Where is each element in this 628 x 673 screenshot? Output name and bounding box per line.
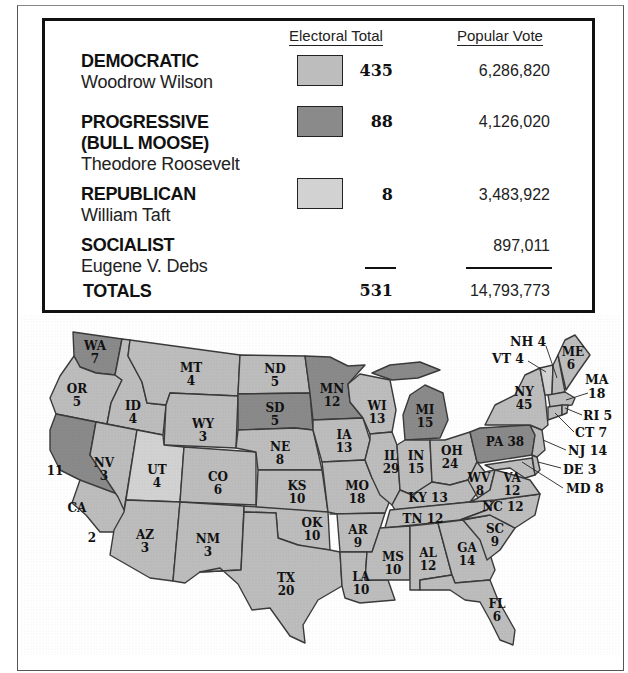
svg-text:NY45: NY45 [514, 385, 534, 412]
label-ME-votes: 6 [567, 358, 575, 372]
candidate-name: William Taft [81, 205, 170, 225]
label-CO-abbr: CO [208, 470, 228, 484]
callout-NJ: NJ 14 [568, 443, 607, 458]
us-electoral-map: WA7 OR5 11 CA 2 ID4 NV3 MT4 WY3 UT4 CO6 … [20, 315, 620, 655]
label-CA-north-votes: 11 [47, 464, 64, 478]
svg-text:MO18: MO18 [345, 479, 369, 506]
label-WA-votes: 7 [91, 352, 99, 366]
svg-text:IL29: IL29 [383, 449, 400, 476]
label-AL-abbr: AL [418, 546, 437, 560]
label-MO-abbr: MO [345, 479, 369, 493]
label-MN-votes: 12 [324, 395, 341, 409]
label-NC: NC 12 [482, 500, 523, 514]
party-name: REPUBLICAN [81, 184, 196, 204]
label-LA-abbr: LA [352, 570, 370, 584]
svg-text:IA13: IA13 [336, 428, 353, 455]
label-VA-abbr: VA [502, 471, 521, 485]
label-ID-abbr: ID [125, 399, 141, 413]
label-MN-abbr: MN [320, 382, 344, 396]
label-NM-votes: 3 [204, 545, 212, 559]
label-MS-votes: 10 [385, 563, 402, 577]
label-OH-abbr: OH [441, 444, 463, 458]
label-OK-abbr: OK [302, 516, 323, 530]
callout-RI: RI 5 [583, 408, 612, 423]
label-IA-abbr: IA [337, 428, 353, 442]
electoral-votes: 88 [333, 112, 393, 132]
svg-text:WI13: WI13 [366, 399, 386, 426]
label-AR-abbr: AR [347, 523, 368, 537]
label-ND-votes: 5 [271, 375, 279, 389]
leader-CT [555, 413, 574, 432]
label-AZ-abbr: AZ [135, 528, 154, 542]
label-NV-votes: 3 [100, 469, 108, 483]
label-MI-votes: 15 [417, 416, 434, 430]
label-IA-votes: 13 [336, 441, 353, 455]
label-IL-abbr: IL [384, 449, 399, 463]
candidate-name: Theodore Roosevelt [81, 154, 240, 174]
leader-DE [538, 462, 561, 468]
label-GA-votes: 14 [459, 554, 476, 568]
label-KY: KY 13 [408, 491, 448, 505]
popular-votes: 3,483,922 [420, 185, 550, 205]
label-OK-votes: 10 [304, 529, 321, 543]
label-MT-votes: 4 [187, 374, 195, 388]
label-ME-abbr: ME [562, 345, 584, 359]
label-CA-abbr: CA [68, 501, 88, 515]
candidate-name: Woodrow Wilson [81, 72, 213, 92]
callout-MA-votes: 18 [588, 386, 606, 401]
party-name: SOCIALIST [81, 235, 174, 255]
label-TX-votes: 20 [278, 584, 295, 598]
label-FL-votes: 6 [493, 610, 501, 624]
electoral-votes: 8 [333, 185, 393, 205]
svg-text:LA10: LA10 [352, 570, 370, 597]
label-NV-abbr: NV [94, 456, 115, 470]
svg-text:IN15: IN15 [408, 449, 425, 476]
label-KS-abbr: KS [287, 479, 306, 493]
label-NM-abbr: NM [196, 532, 220, 546]
svg-text:MI15: MI15 [416, 403, 435, 430]
label-ID-votes: 4 [129, 412, 137, 426]
label-ND-abbr: ND [264, 362, 285, 376]
label-WV-abbr: WV [467, 471, 491, 485]
svg-text:VA12: VA12 [502, 471, 521, 498]
label-MI-abbr: MI [416, 403, 435, 417]
label-SD-votes: 5 [271, 414, 279, 428]
label-WV-votes: 8 [476, 484, 484, 498]
label-WY-abbr: WY [191, 417, 214, 431]
callout-MA-abbr: MA [585, 372, 609, 387]
svg-text:OK10: OK10 [302, 516, 323, 543]
total-popular-votes: 14,793,773 [420, 281, 550, 301]
label-SD-abbr: SD [265, 401, 284, 415]
label-NE-abbr: NE [270, 440, 290, 454]
label-CO-votes: 6 [214, 483, 222, 497]
popular-votes: 897,011 [420, 236, 550, 256]
callout-CT: CT 7 [575, 425, 607, 440]
label-IL-votes: 29 [383, 462, 400, 476]
popular-vote-header: Popular Vote [457, 27, 543, 46]
label-WY-votes: 3 [199, 430, 207, 444]
callout-MD: MD 8 [566, 481, 604, 496]
label-CA-south-votes: 2 [88, 531, 96, 545]
electoral-total-header: Electoral Total [289, 27, 383, 46]
label-LA-votes: 10 [353, 583, 370, 597]
label-SC-votes: 9 [491, 535, 499, 549]
label-FL-abbr: FL [489, 597, 507, 611]
label-TX-abbr: TX [277, 571, 296, 585]
label-MT-abbr: MT [180, 361, 202, 375]
label-MO-votes: 18 [349, 492, 366, 506]
label-KS-votes: 10 [289, 492, 306, 506]
svg-text:AL12: AL12 [418, 546, 437, 573]
electoral-sum-rule [365, 267, 396, 269]
label-TN: TN 12 [403, 512, 444, 526]
state-MI-upper [372, 362, 440, 380]
callout-NH: NH 4 [510, 334, 547, 349]
label-VA-votes: 12 [504, 484, 521, 498]
label-NE-votes: 8 [276, 453, 284, 467]
label-SC-abbr: SC [486, 522, 504, 536]
popular-sum-rule [466, 267, 552, 269]
label-MS-abbr: MS [382, 550, 404, 564]
label-AL-votes: 12 [420, 559, 437, 573]
state-RI [562, 405, 568, 415]
label-IN-abbr: IN [408, 449, 425, 463]
label-AZ-votes: 3 [141, 541, 149, 555]
